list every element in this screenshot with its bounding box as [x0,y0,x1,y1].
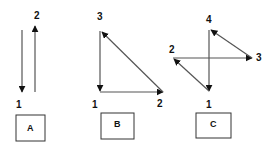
point-label-3: 3 [97,11,103,22]
panel-a: 2 1 A [16,10,45,141]
point-label-2: 2 [34,10,40,21]
panel-b: 3 1 2 B [92,11,163,139]
point-label-1: 1 [206,99,212,110]
point-label-1: 1 [16,99,22,110]
arrow-1-to-2 [174,59,209,91]
arrow-2-to-3 [102,32,163,92]
diagram-canvas: 2 1 A 3 1 2 B 4 2 3 1 C [0,0,274,148]
point-label-2: 2 [169,44,175,55]
point-label-4: 4 [206,14,212,25]
point-label-2: 2 [157,98,163,109]
point-label-1: 1 [92,99,98,110]
panel-label-a: A [27,123,34,133]
panel-label-b: B [114,119,121,129]
panel-label-c: C [210,119,217,129]
panel-c: 4 2 3 1 C [169,14,262,138]
point-label-3: 3 [256,52,262,63]
arrow-3-to-4 [211,30,252,58]
